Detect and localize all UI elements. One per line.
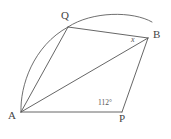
segment-a-q [21,27,68,112]
angle-label-x: x [131,36,135,44]
vertex-label-b: B [153,29,160,40]
vertex-label-p: P [119,113,125,124]
segment-q-b [68,27,148,38]
geometry-figure: A Q B P x 112° [0,0,171,139]
vertex-label-q: Q [61,10,69,21]
segment-b-p [122,38,148,112]
segment-a-b [21,38,148,112]
vertex-label-a: A [8,110,16,121]
geometry-canvas [0,0,171,139]
arc-q-to-b [68,14,152,27]
angle-label-112-degrees: 112° [98,99,112,107]
